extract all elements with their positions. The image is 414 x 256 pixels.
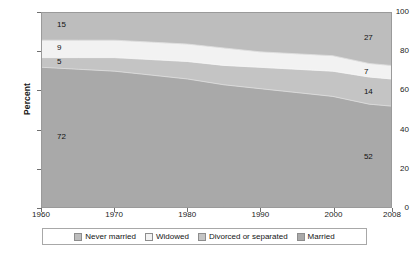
- legend-swatch-icon: [145, 233, 153, 241]
- area-value-label: 15: [57, 21, 66, 29]
- area-value-label: 72: [57, 133, 66, 141]
- legend-item[interactable]: Never married: [74, 233, 136, 241]
- legend-item[interactable]: Married: [297, 233, 335, 241]
- x-tick-mark: [187, 208, 188, 212]
- legend-label: Never married: [85, 233, 136, 241]
- legend-swatch-icon: [74, 233, 82, 241]
- x-tick-mark: [260, 208, 261, 212]
- x-tick-mark: [41, 208, 42, 212]
- area-value-label: 7: [364, 68, 368, 76]
- plot-area: [41, 12, 392, 208]
- x-tick-label: 1970: [91, 211, 137, 219]
- y-axis-title: Percent: [22, 64, 32, 134]
- x-tick-label: 2000: [311, 211, 357, 219]
- x-tick-label: 1990: [237, 211, 283, 219]
- area-value-label: 27: [364, 34, 373, 42]
- x-tick-label: 1980: [164, 211, 210, 219]
- x-tick-mark: [114, 208, 115, 212]
- legend-item[interactable]: Divorced or separated: [198, 233, 288, 241]
- legend-label: Divorced or separated: [209, 233, 288, 241]
- area-series-group: [42, 13, 391, 207]
- legend-swatch-icon: [297, 233, 305, 241]
- area-value-label: 9: [57, 44, 61, 52]
- x-tick-mark: [334, 208, 335, 212]
- chart-legend: Never marriedWidowedDivorced or separate…: [42, 228, 367, 245]
- legend-swatch-icon: [198, 233, 206, 241]
- x-tick-label: 1960: [18, 211, 64, 219]
- area-value-label: 52: [364, 153, 373, 161]
- legend-label: Widowed: [156, 233, 189, 241]
- x-tick-label: 2008: [369, 211, 414, 219]
- legend-label: Married: [308, 233, 335, 241]
- area-value-label: 5: [57, 58, 61, 66]
- x-tick-mark: [392, 208, 393, 212]
- legend-item[interactable]: Widowed: [145, 233, 189, 241]
- area-value-label: 14: [364, 88, 373, 96]
